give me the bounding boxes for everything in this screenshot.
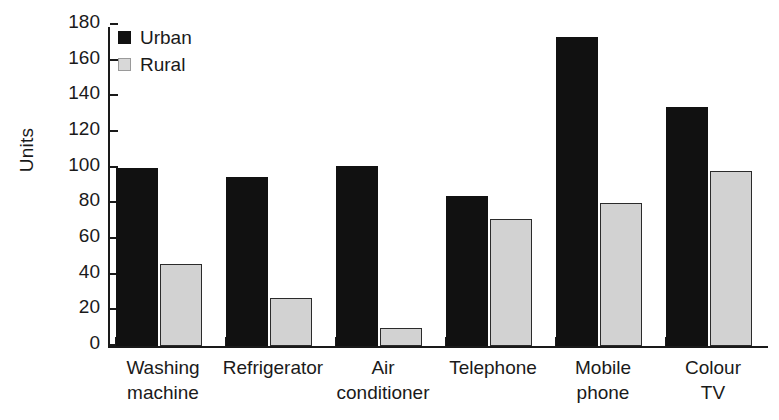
bar-rural-0 [160,264,202,346]
chart-legend: Urban Rural [118,24,192,78]
bar-chart: Units 020406080100120140160180 Washing m… [0,0,779,420]
y-tick-mark [110,59,118,61]
legend-label-urban: Urban [140,27,192,49]
bar-rural-2 [380,328,422,346]
y-tick-label: 160 [68,46,100,70]
y-tick-label: 0 [89,331,100,355]
y-tick-label: 20 [79,295,100,319]
y-tick-label: 80 [79,188,100,212]
bar-urban-1 [226,177,268,346]
y-tick: 180 [108,23,118,25]
y-tick-mark [110,23,118,25]
y-tick: 160 [108,59,118,61]
bar-rural-4 [600,203,642,346]
y-tick: 120 [108,130,118,132]
bar-rural-5 [710,171,752,346]
y-axis-line [108,27,110,348]
bar-urban-4 [556,37,598,346]
legend-item-urban: Urban [118,24,192,51]
category-label: Colour TV [648,355,778,405]
bar-urban-2 [336,166,378,346]
y-tick-label: 40 [79,260,100,284]
bar-rural-3 [490,219,532,346]
y-tick-label: 120 [68,117,100,141]
y-tick-label: 100 [68,153,100,177]
legend-swatch-rural-icon [118,58,131,71]
bar-rural-1 [270,298,312,346]
y-tick-label: 60 [79,224,100,248]
legend-label-rural: Rural [140,54,185,76]
bar-urban-5 [666,107,708,346]
bar-urban-3 [446,196,488,346]
x-axis-line [108,346,768,348]
bar-urban-0 [116,168,158,346]
plot-area: 020406080100120140160180 [108,27,768,348]
legend-item-rural: Rural [118,51,192,78]
y-axis-title: Units [16,90,38,210]
y-tick: 140 [108,94,118,96]
y-tick-mark [110,130,118,132]
y-tick-label: 180 [68,10,100,34]
y-tick-label: 140 [68,81,100,105]
legend-swatch-urban-icon [118,31,131,44]
y-tick-mark [110,94,118,96]
